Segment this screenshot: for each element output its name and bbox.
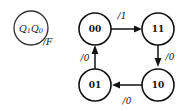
legend-state-label: Q1Q0 bbox=[19, 23, 43, 35]
edge-11-to-10-arrowhead bbox=[155, 58, 162, 67]
legend-group: Q1Q0 /F bbox=[14, 11, 53, 47]
node-01[interactable]: 01 bbox=[79, 69, 111, 101]
node-01-label: 01 bbox=[89, 80, 102, 90]
edge-00-to-11-label: /1 bbox=[117, 11, 127, 21]
edge-00-to-11: /1 bbox=[111, 11, 142, 32]
edge-10-to-01-label: /0 bbox=[122, 96, 132, 106]
node-group: 00 11 01 10 bbox=[79, 13, 174, 101]
node-00-label: 00 bbox=[89, 24, 102, 34]
edge-01-to-00: /0 bbox=[80, 45, 99, 69]
node-11[interactable]: 11 bbox=[142, 13, 174, 45]
node-10[interactable]: 10 bbox=[142, 69, 174, 101]
node-00[interactable]: 00 bbox=[79, 13, 111, 45]
edge-11-to-10: /0 bbox=[155, 45, 175, 67]
state-transition-diagram: Q1Q0 /F 00 11 01 10 /1 bbox=[0, 0, 187, 111]
node-11-label: 11 bbox=[152, 24, 165, 34]
edge-10-to-01: /0 bbox=[112, 82, 142, 106]
edge-00-to-11-arrowhead bbox=[134, 26, 142, 33]
edge-01-to-00-label: /0 bbox=[80, 53, 90, 63]
edge-11-to-10-label: /0 bbox=[165, 52, 175, 62]
edge-10-to-01-arrowhead bbox=[112, 82, 120, 89]
edge-01-to-00-arrowhead bbox=[92, 45, 99, 54]
node-10-label: 10 bbox=[152, 80, 165, 90]
legend-output-label: /F bbox=[42, 37, 53, 47]
